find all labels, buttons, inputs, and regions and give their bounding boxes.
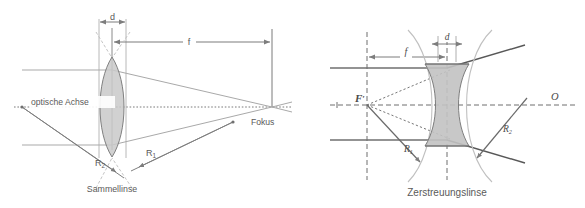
diverging-lens-caption: Zerstreuungslinse: [407, 187, 487, 198]
diverging-radius-1-label: R1: [403, 144, 413, 155]
diverging-ray-lower-after-focus: [272, 107, 292, 112]
diverging-radius-2-subscript: 2: [509, 128, 512, 135]
optics-figure: d f: [0, 0, 585, 208]
diverging-radius-2-line: [477, 98, 527, 158]
diverging-ray-upper-after-focus: [272, 102, 292, 107]
diverging-thickness-label: d: [445, 32, 450, 42]
diverging-radius-2-label: R2: [502, 124, 512, 135]
right-surface-arc: [467, 30, 493, 182]
refracted-ray-lower: [112, 107, 272, 145]
optical-axis-label: optische Achse: [31, 97, 89, 107]
upper-vertex-tangent-left: [96, 32, 112, 58]
radius-1-label-subscript: 1: [153, 152, 157, 159]
diverging-lens-diagram: d f: [330, 30, 575, 198]
thickness-label-left: d: [110, 12, 115, 22]
converging-lens-diagram: d f: [14, 12, 292, 194]
origin-label: O: [551, 91, 559, 102]
focus-label: Fokus: [251, 117, 274, 127]
optics-diagram-canvas: d f: [0, 0, 585, 208]
refracted-ray-upper: [112, 70, 272, 107]
upper-vertex-tangent-right: [112, 32, 130, 58]
converging-lens-caption: Sammellinse: [87, 184, 137, 194]
radius-2-center-dot: [20, 105, 23, 108]
radius-1-arrow-segment: [139, 122, 233, 167]
radius-1-label: R1: [146, 148, 157, 159]
diverging-radius-1-subscript: 1: [410, 148, 413, 155]
focal-point-label: F′: [354, 92, 365, 104]
focal-point-prime-mark: ′: [362, 94, 365, 104]
radius-1-center-dot: [231, 120, 234, 123]
radius-2-label: R2: [95, 158, 106, 169]
radius-2-label-subscript: 2: [102, 162, 106, 169]
